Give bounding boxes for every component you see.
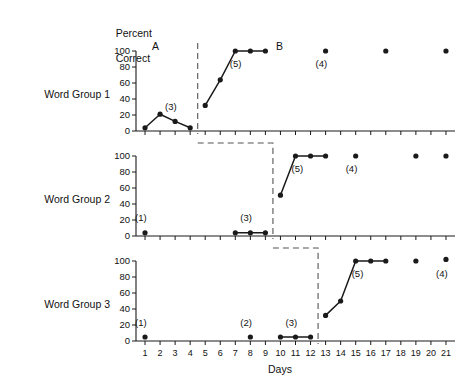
annotation-3-1: (2) [240, 317, 252, 328]
baseline-connector-1 [198, 143, 273, 148]
followup-probe-point [443, 257, 448, 262]
baseline-probe-point [248, 334, 253, 339]
y-tick-label-1-0: 0 [102, 125, 130, 136]
baseline-probe-point [142, 334, 147, 339]
data-point [338, 298, 343, 303]
y-tick-label-1-60: 60 [102, 77, 130, 88]
annotation-2-0: (1) [135, 212, 147, 223]
data-point [248, 230, 253, 235]
data-point [308, 334, 313, 339]
data-point [323, 313, 328, 318]
data-point [188, 125, 193, 130]
annotation-3-2: (3) [286, 317, 298, 328]
y-tick-label-2-100: 100 [102, 150, 130, 161]
followup-probe-point [323, 48, 328, 53]
data-point [293, 334, 298, 339]
y-tick-label-3-40: 40 [102, 303, 130, 314]
annotation-2-2: (5) [292, 163, 304, 174]
baseline-connector-2 [273, 248, 318, 253]
y-tick-label-2-60: 60 [102, 182, 130, 193]
annotation-2-3: (4) [346, 163, 358, 174]
y-tick-label-2-40: 40 [102, 198, 130, 209]
y-tick-label-2-20: 20 [102, 214, 130, 225]
data-point [263, 48, 268, 53]
data-point [278, 334, 283, 339]
data-point [293, 153, 298, 158]
x-tick-label-21: 21 [437, 348, 455, 358]
followup-probe-point [413, 258, 418, 263]
y-tick-label-1-20: 20 [102, 109, 130, 120]
y-tick-label-1-80: 80 [102, 61, 130, 72]
y-tick-label-3-100: 100 [102, 255, 130, 266]
followup-probe-point [353, 153, 358, 158]
followup-probe-point [413, 153, 418, 158]
data-point [368, 258, 373, 263]
followup-probe-point [443, 153, 448, 158]
y-tick-label-3-80: 80 [102, 271, 130, 282]
annotation-3-0: (1) [135, 317, 147, 328]
chart-canvas: Percent Correct A B Word Group 1 Word Gr… [0, 0, 472, 385]
data-point [233, 230, 238, 235]
data-point [353, 258, 358, 263]
followup-probe-point [443, 48, 448, 53]
baseline-probe-point [142, 230, 147, 235]
annotation-1-0: (3) [165, 101, 177, 112]
y-tick-label-3-20: 20 [102, 319, 130, 330]
series-line-1-phase-a [145, 114, 190, 128]
y-tick-label-3-60: 60 [102, 287, 130, 298]
annotation-3-4: (4) [436, 268, 448, 279]
annotation-1-1: (5) [230, 58, 242, 69]
data-point [218, 77, 223, 82]
y-tick-label-2-0: 0 [102, 230, 130, 241]
followup-probe-point [383, 48, 388, 53]
data-point [278, 193, 283, 198]
data-point [263, 230, 268, 235]
y-tick-label-1-100: 100 [102, 45, 130, 56]
data-point [308, 153, 313, 158]
data-point [248, 48, 253, 53]
y-tick-label-3-0: 0 [102, 335, 130, 346]
data-point [383, 258, 388, 263]
annotation-2-1: (3) [240, 212, 252, 223]
annotation-3-3: (5) [352, 268, 364, 279]
data-point [233, 48, 238, 53]
data-point [173, 119, 178, 124]
data-point [142, 125, 147, 130]
y-tick-label-1-40: 40 [102, 93, 130, 104]
data-point [157, 112, 162, 117]
annotation-1-2: (4) [316, 58, 328, 69]
y-tick-label-2-80: 80 [102, 166, 130, 177]
data-point [203, 103, 208, 108]
data-point [323, 153, 328, 158]
